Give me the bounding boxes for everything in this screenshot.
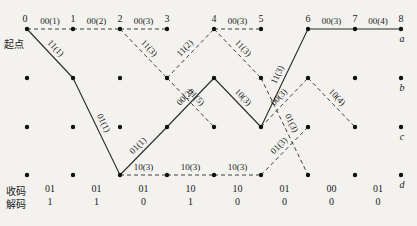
state-node bbox=[212, 27, 216, 31]
trellis-branch bbox=[27, 29, 73, 78]
branch-metric-label: 00(4) bbox=[368, 16, 388, 26]
branch-metric-label: 00(3) bbox=[228, 16, 248, 26]
received-code: 01 bbox=[280, 183, 290, 194]
trellis-branch bbox=[261, 127, 308, 175]
state-node bbox=[165, 76, 169, 80]
branch-metric-label: 01(3) bbox=[268, 135, 289, 156]
state-node bbox=[306, 76, 310, 80]
branch-metric-label: 11(3) bbox=[233, 38, 253, 59]
trellis-branch bbox=[167, 29, 214, 78]
state-label: c bbox=[400, 131, 405, 142]
state-node bbox=[165, 27, 169, 31]
trellis-branch bbox=[261, 29, 308, 127]
decoded-bit: 1 bbox=[94, 196, 99, 207]
branch-metric-label: 00(3) bbox=[322, 16, 342, 26]
state-node bbox=[25, 27, 29, 31]
state-node bbox=[399, 173, 403, 177]
branch-metric-label: 01(1) bbox=[95, 112, 113, 134]
decoded-bit: 0 bbox=[141, 196, 146, 207]
state-node bbox=[25, 125, 29, 129]
state-node bbox=[353, 76, 357, 80]
state-node bbox=[118, 27, 122, 31]
state-label: d bbox=[400, 179, 406, 190]
start-label: 起点 bbox=[4, 39, 24, 50]
state-node bbox=[399, 125, 403, 129]
received-code: 10 bbox=[186, 183, 196, 194]
state-node bbox=[259, 125, 263, 129]
state-node bbox=[353, 125, 357, 129]
state-node bbox=[212, 125, 216, 129]
decoded-bit: 1 bbox=[48, 196, 53, 207]
branch-metric-label: 10(3) bbox=[233, 86, 254, 107]
state-node bbox=[118, 173, 122, 177]
state-node bbox=[259, 173, 263, 177]
received-code: 01 bbox=[92, 183, 102, 194]
branch-metric-label: 00(2) bbox=[87, 16, 107, 26]
state-node bbox=[165, 173, 169, 177]
state-node bbox=[165, 125, 169, 129]
trellis-branch bbox=[214, 78, 261, 127]
trellis-branch bbox=[120, 29, 167, 78]
branch-metric-label: 10(3) bbox=[134, 162, 154, 172]
branch-metric-label: 00(3) bbox=[268, 86, 289, 107]
state-node bbox=[353, 173, 357, 177]
state-node bbox=[399, 76, 403, 80]
branch-metric-label: 11(3) bbox=[269, 64, 286, 86]
state-node bbox=[212, 76, 216, 80]
state-node bbox=[71, 27, 75, 31]
trellis-branch bbox=[73, 78, 120, 175]
decoded-bit: 0 bbox=[282, 196, 287, 207]
received-code: 01 bbox=[45, 183, 55, 194]
branch-metric-label: 10(3) bbox=[181, 162, 201, 172]
time-index-label: 6 bbox=[306, 13, 311, 24]
state-node bbox=[71, 125, 75, 129]
time-index-label: 3 bbox=[165, 13, 170, 24]
received-code: 00 bbox=[327, 183, 337, 194]
decoded-bit: 0 bbox=[235, 196, 240, 207]
received-code: 01 bbox=[373, 183, 383, 194]
state-node bbox=[259, 76, 263, 80]
state-node bbox=[25, 173, 29, 177]
state-node bbox=[118, 125, 122, 129]
trellis-diagram: 00(1)00(2)00(3)00(3)00(3)00(4)11(1)01(1)… bbox=[0, 0, 417, 226]
branch-metric-label: 11(3) bbox=[139, 38, 159, 59]
time-index-label: 8 bbox=[399, 13, 404, 24]
time-index-label: 2 bbox=[118, 13, 123, 24]
state-label: a bbox=[400, 33, 405, 44]
branch-metric-label: 11(1) bbox=[46, 38, 66, 59]
received-code: 01 bbox=[139, 183, 149, 194]
received-code: 10 bbox=[233, 183, 243, 194]
state-node bbox=[212, 173, 216, 177]
state-label: b bbox=[400, 82, 405, 93]
state-node bbox=[118, 76, 122, 80]
state-node bbox=[353, 27, 357, 31]
time-index-label: 0 bbox=[23, 13, 28, 24]
branch-metric-label: 10(3) bbox=[228, 162, 248, 172]
state-node bbox=[71, 76, 75, 80]
branch-metric-label: 11(2) bbox=[174, 38, 194, 59]
state-node bbox=[399, 27, 403, 31]
branch-metric-label: 00(3) bbox=[134, 16, 154, 26]
state-node bbox=[25, 76, 29, 80]
state-node bbox=[306, 173, 310, 177]
time-index-label: 7 bbox=[353, 13, 358, 24]
branch-metric-label: 10(4) bbox=[327, 86, 348, 107]
decoded-bit: 1 bbox=[188, 196, 193, 207]
decoded-bit: 0 bbox=[329, 196, 334, 207]
decoded-code-label: 解码 bbox=[6, 196, 26, 211]
trellis-branch bbox=[261, 78, 308, 127]
branch-metric-label: 01(1) bbox=[127, 135, 148, 156]
time-index-label: 1 bbox=[71, 13, 76, 24]
branch-metric-label: 00(1) bbox=[40, 16, 60, 26]
time-index-label: 4 bbox=[212, 13, 217, 24]
decoded-bit: 0 bbox=[376, 196, 381, 207]
trellis-branch bbox=[308, 78, 355, 127]
state-node bbox=[306, 125, 310, 129]
state-node bbox=[306, 27, 310, 31]
state-node bbox=[259, 27, 263, 31]
trellis-branch bbox=[214, 29, 261, 78]
branch-metric-label: 01(3) bbox=[283, 112, 301, 134]
time-index-label: 5 bbox=[259, 13, 264, 24]
state-node bbox=[71, 173, 75, 177]
